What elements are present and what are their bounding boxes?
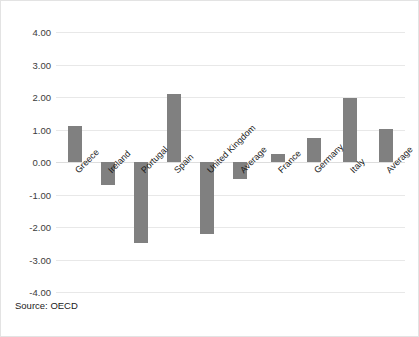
chart-figure: 4.003.002.001.000.00-1.00-2.00-3.00-4.00… — [0, 0, 419, 337]
bar — [379, 129, 393, 162]
bar — [343, 98, 357, 162]
gridline — [56, 195, 405, 196]
category-label: Portugal — [139, 144, 170, 175]
gridline — [56, 227, 405, 228]
bar — [68, 126, 82, 162]
y-axis-tick-label: 1.00 — [7, 124, 51, 135]
gridline — [56, 260, 405, 261]
gridline — [56, 32, 405, 33]
gridline — [56, 292, 405, 293]
y-axis: 4.003.002.001.000.00-1.00-2.00-3.00-4.00 — [1, 32, 51, 292]
y-axis-tick-label: -3.00 — [7, 254, 51, 265]
y-axis-tick-label: -4.00 — [7, 287, 51, 298]
y-axis-tick-label: 0.00 — [7, 157, 51, 168]
y-axis-tick-label: -2.00 — [7, 222, 51, 233]
bar — [307, 138, 321, 162]
y-axis-tick-label: 3.00 — [7, 59, 51, 70]
category-label: Average — [238, 144, 269, 175]
source-note: Source: OECD — [15, 300, 78, 311]
y-axis-tick-label: -1.00 — [7, 189, 51, 200]
gridline — [56, 65, 405, 66]
y-axis-tick-label: 2.00 — [7, 92, 51, 103]
y-axis-tick-label: 4.00 — [7, 27, 51, 38]
plot-area: GreeceIrelandPortugalSpainUnited Kingdom… — [56, 32, 405, 292]
